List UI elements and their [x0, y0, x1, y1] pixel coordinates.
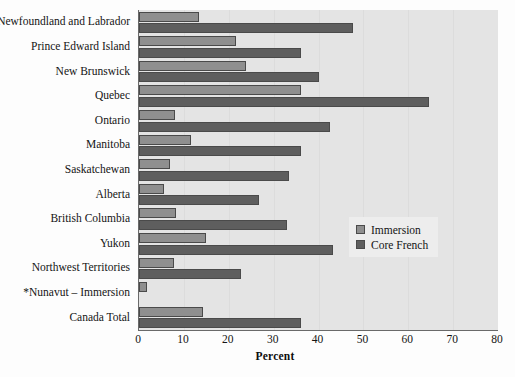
bar-core-french: [139, 318, 301, 328]
y-axis-label: Saskatchewan: [65, 163, 130, 176]
y-axis-label: Yukon: [100, 237, 130, 250]
y-axis-label: Canada Total: [69, 311, 130, 324]
bar-core-french: [139, 195, 259, 205]
x-axis-tick-label: 30: [267, 333, 279, 345]
gridline: [319, 10, 320, 330]
bar-core-french: [139, 48, 301, 58]
bar-immersion: [139, 208, 176, 218]
bar-core-french: [139, 97, 429, 107]
gridline: [363, 10, 364, 330]
bar-immersion: [139, 282, 147, 292]
bar-immersion: [139, 12, 199, 22]
x-axis-title: Percent: [256, 350, 295, 362]
bar-core-french: [139, 269, 241, 279]
gridline: [408, 10, 409, 330]
y-axis-label: Northwest Territories: [32, 261, 130, 274]
y-axis-label: *Nunavut – Immersion: [23, 286, 130, 299]
bar-immersion: [139, 36, 236, 46]
x-axis-tick-label: 50: [357, 333, 369, 345]
bar-immersion: [139, 110, 175, 120]
x-axis-tick-label: 20: [222, 333, 234, 345]
x-axis-tick-label: 10: [177, 333, 189, 345]
bar-immersion: [139, 233, 206, 243]
french-programs-bar-chart: Newfoundland and LabradorPrince Edward I…: [0, 0, 515, 377]
bar-core-french: [139, 72, 319, 82]
bar-immersion: [139, 85, 301, 95]
x-axis-tick-label: 0: [135, 333, 141, 345]
bar-core-french: [139, 146, 301, 156]
x-axis-tick-label: 60: [402, 333, 414, 345]
legend-swatch-core-french-icon: [356, 240, 365, 249]
bar-core-french: [139, 23, 353, 33]
x-axis-tick-label: 80: [491, 333, 503, 345]
bar-immersion: [139, 61, 246, 71]
x-axis-line: [138, 330, 498, 331]
y-axis-label: Manitoba: [86, 138, 130, 151]
y-axis-label: Quebec: [95, 89, 130, 102]
y-axis-label: Prince Edward Island: [31, 40, 130, 53]
bar-core-french: [139, 122, 330, 132]
legend-item-core-french: Core French: [356, 237, 428, 252]
y-axis-label: Ontario: [95, 114, 130, 127]
bar-core-french: [139, 245, 333, 255]
y-axis-label: Alberta: [96, 188, 130, 201]
bar-immersion: [139, 159, 170, 169]
y-axis-label: New Brunswick: [56, 65, 130, 78]
bar-immersion: [139, 184, 164, 194]
gridline: [453, 10, 454, 330]
legend-label-immersion: Immersion: [371, 224, 421, 236]
bar-immersion: [139, 135, 191, 145]
y-axis-labels: Newfoundland and LabradorPrince Edward I…: [0, 10, 134, 330]
plot-area: [138, 10, 498, 330]
legend-label-core-french: Core French: [371, 239, 428, 251]
bar-core-french: [139, 220, 287, 230]
legend-swatch-immersion-icon: [356, 225, 365, 234]
y-axis-label: Newfoundland and Labrador: [0, 15, 130, 28]
bar-core-french: [139, 171, 289, 181]
y-axis-label: British Columbia: [50, 212, 130, 225]
bar-immersion: [139, 258, 174, 268]
x-axis-tick-label: 40: [312, 333, 324, 345]
chart-legend: Immersion Core French: [349, 217, 438, 257]
bar-immersion: [139, 307, 203, 317]
legend-item-immersion: Immersion: [356, 222, 428, 237]
x-axis-tick-label: 70: [446, 333, 458, 345]
